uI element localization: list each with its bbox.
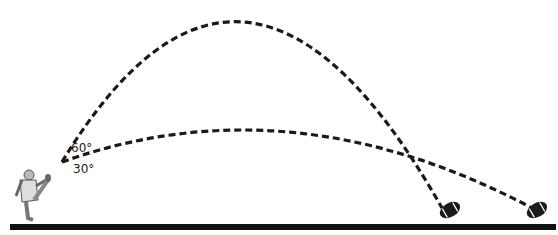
trajectory-diagram bbox=[0, 0, 558, 235]
ground-line bbox=[10, 224, 556, 230]
trajectory-60-degree bbox=[62, 22, 442, 208]
angle-label-30: 30° bbox=[73, 162, 94, 176]
football-icon bbox=[524, 198, 550, 221]
kicker-player-icon bbox=[16, 170, 51, 220]
angle-label-60: 60° bbox=[71, 141, 92, 155]
trajectory-30-degree bbox=[62, 130, 532, 208]
football-icon bbox=[437, 198, 463, 221]
